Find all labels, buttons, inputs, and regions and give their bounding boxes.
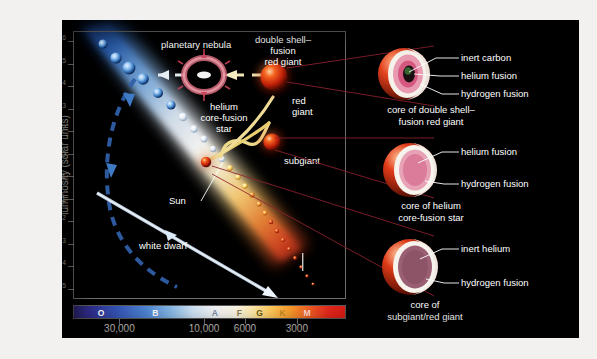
panel-double-shell-fusion-red-giant: inert carbon helium fusion hydrogen fusi… <box>362 32 574 132</box>
caption-line-2: core-fusion star <box>356 212 506 224</box>
panel-subgiant-red-giant: inert helium hydrogen fusion core of sub… <box>362 225 574 330</box>
caption-line-1: core of <box>350 299 500 311</box>
caption-double-shell: core of double shell– fusion red giant <box>356 104 506 127</box>
caption-line-2: fusion red giant <box>356 116 506 128</box>
anno-hydrogen-fusion: hydrogen fusion <box>461 277 529 288</box>
anno-helium-fusion: helium fusion <box>461 146 517 157</box>
anno-helium-fusion: helium fusion <box>461 70 517 81</box>
caption-subgiant: core of subgiant/red giant <box>350 299 500 322</box>
anno-inert-helium: inert helium <box>461 243 510 254</box>
anno-hydrogen-fusion: hydrogen fusion <box>461 88 529 99</box>
hr-diagram-figure: 1061051041031021010.110-210-310-410-5 lu… <box>62 20 579 338</box>
anno-hydrogen-fusion: hydrogen fusion <box>461 178 529 189</box>
caption-helium-core: core of helium core-fusion star <box>356 200 506 223</box>
anno-inert-carbon: inert carbon <box>461 52 511 63</box>
figure-page: 1061051041031021010.110-210-310-410-5 lu… <box>0 0 597 359</box>
panel-helium-core-fusion-star: helium fusion hydrogen fusion core of he… <box>362 130 574 230</box>
caption-line-1: core of helium <box>356 200 506 212</box>
caption-line-2: subgiant/red giant <box>350 311 500 323</box>
caption-line-1: core of double shell– <box>356 104 506 116</box>
